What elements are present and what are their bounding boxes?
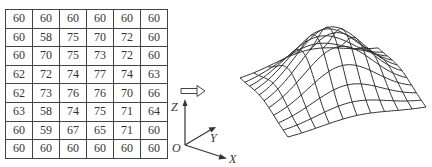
grid-cell: 60 <box>6 10 33 29</box>
grid-cell: 60 <box>141 140 168 159</box>
grid-cell: 62 <box>6 84 33 103</box>
grid-cell: 62 <box>6 65 33 84</box>
grid-cell: 76 <box>87 84 114 103</box>
grid-cell: 72 <box>114 47 141 66</box>
grid-cell: 71 <box>114 102 141 121</box>
grid-cell: 60 <box>33 10 60 29</box>
grid-cell: 74 <box>60 102 87 121</box>
coordinate-axes: Z Y X O <box>170 95 245 165</box>
grid-cell: 60 <box>6 28 33 47</box>
grid-cell: 60 <box>141 121 168 140</box>
grid-cell: 60 <box>60 140 87 159</box>
grid-cell: 60 <box>6 121 33 140</box>
grid-cell: 60 <box>33 140 60 159</box>
grid-row: 606060606060 <box>6 140 168 159</box>
grid-cell: 60 <box>60 10 87 29</box>
grid-cell: 71 <box>114 121 141 140</box>
grid-cell: 60 <box>114 140 141 159</box>
grid-cell: 60 <box>6 140 33 159</box>
grid-cell: 59 <box>33 121 60 140</box>
grid-cell: 73 <box>33 84 60 103</box>
x-axis-label: X <box>228 152 237 165</box>
grid-row: 607075737260 <box>6 47 168 66</box>
grid-cell: 75 <box>60 28 87 47</box>
grid-cell: 76 <box>60 84 87 103</box>
grid-cell: 58 <box>33 102 60 121</box>
grid-row: 635874757164 <box>6 102 168 121</box>
mesh-line <box>254 73 302 133</box>
grid-cell: 60 <box>141 10 168 29</box>
wireframe-surface <box>240 0 432 167</box>
mesh-line <box>288 107 426 137</box>
grid-cell: 73 <box>87 47 114 66</box>
grid-cell: 77 <box>87 65 114 84</box>
z-axis-label: Z <box>171 100 178 114</box>
grid-cell: 60 <box>6 47 33 66</box>
grid-row: 606060606060 <box>6 10 168 29</box>
grid-body: 6060606060606058757072606070757372606272… <box>6 10 168 159</box>
grid-cell: 65 <box>87 121 114 140</box>
origin-label: O <box>172 141 181 155</box>
height-grid-table: 6060606060606058757072606070757372606272… <box>5 9 168 159</box>
grid-cell: 70 <box>33 47 60 66</box>
grid-cell: 63 <box>6 102 33 121</box>
grid-row: 605967657160 <box>6 121 168 140</box>
grid-cell: 72 <box>33 65 60 84</box>
grid-cell: 70 <box>114 84 141 103</box>
grid-cell: 66 <box>141 84 168 103</box>
grid-cell: 60 <box>87 10 114 29</box>
grid-cell: 60 <box>114 10 141 29</box>
grid-cell: 60 <box>141 28 168 47</box>
grid-cell: 64 <box>141 102 168 121</box>
grid-cell: 60 <box>87 140 114 159</box>
grid-cell: 74 <box>114 65 141 84</box>
grid-cell: 60 <box>141 47 168 66</box>
grid-cell: 75 <box>60 47 87 66</box>
grid-cell: 63 <box>141 65 168 84</box>
grid-row: 605875707260 <box>6 28 168 47</box>
grid-cell: 67 <box>60 121 87 140</box>
grid-cell: 75 <box>87 102 114 121</box>
grid-cell: 70 <box>87 28 114 47</box>
grid-row: 627376767066 <box>6 84 168 103</box>
grid-cell: 58 <box>33 28 60 47</box>
mesh-line <box>283 100 421 130</box>
y-axis-label: Y <box>210 131 218 145</box>
grid-cell: 72 <box>114 28 141 47</box>
mesh-line <box>240 78 288 137</box>
grid-cell: 74 <box>60 65 87 84</box>
mesh-line <box>281 49 329 123</box>
mesh-line <box>268 66 316 129</box>
grid-row: 627274777463 <box>6 65 168 84</box>
